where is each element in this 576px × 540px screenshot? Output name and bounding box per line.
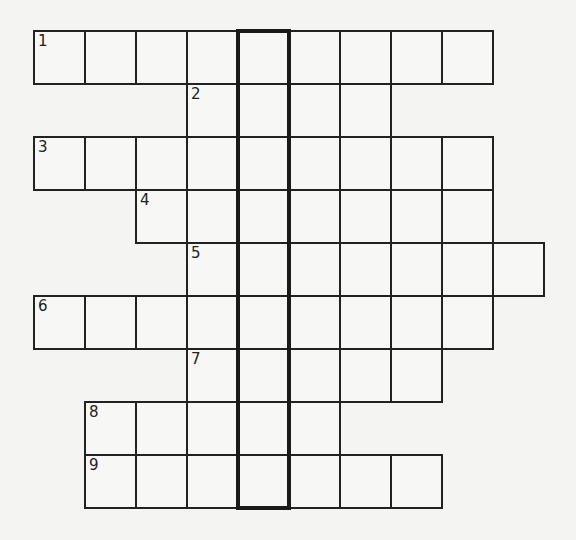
letter-input[interactable]: [137, 138, 186, 189]
letter-input[interactable]: [443, 191, 492, 242]
crossword-cell[interactable]: [288, 454, 341, 509]
crossword-cell[interactable]: [390, 454, 443, 509]
crossword-cell[interactable]: [186, 136, 239, 191]
letter-input[interactable]: [137, 191, 186, 242]
letter-input[interactable]: [239, 32, 288, 83]
crossword-cell[interactable]: 4: [135, 189, 188, 244]
letter-input[interactable]: [188, 403, 237, 454]
crossword-cell[interactable]: [390, 189, 443, 244]
letter-input[interactable]: [137, 32, 186, 83]
letter-input[interactable]: [239, 191, 288, 242]
letter-input[interactable]: [341, 350, 390, 401]
crossword-cell[interactable]: [288, 189, 341, 244]
crossword-cell[interactable]: [186, 295, 239, 350]
letter-input[interactable]: [392, 32, 441, 83]
letter-input[interactable]: [137, 456, 186, 507]
crossword-cell[interactable]: [441, 189, 494, 244]
letter-input[interactable]: [290, 85, 339, 136]
crossword-cell[interactable]: [441, 30, 494, 85]
letter-input[interactable]: [188, 297, 237, 348]
crossword-cell[interactable]: [84, 30, 137, 85]
letter-input[interactable]: [392, 191, 441, 242]
crossword-cell[interactable]: [339, 454, 392, 509]
crossword-cell[interactable]: [84, 295, 137, 350]
letter-input[interactable]: [341, 191, 390, 242]
letter-input[interactable]: [290, 191, 339, 242]
crossword-cell[interactable]: [390, 30, 443, 85]
letter-input[interactable]: [443, 32, 492, 83]
crossword-cell[interactable]: [135, 401, 188, 456]
crossword-cell[interactable]: [288, 83, 341, 138]
letter-input[interactable]: [290, 32, 339, 83]
letter-input[interactable]: [443, 138, 492, 189]
letter-input[interactable]: [188, 138, 237, 189]
letter-input[interactable]: [239, 403, 288, 454]
crossword-cell[interactable]: [339, 189, 392, 244]
letter-input[interactable]: [290, 456, 339, 507]
letter-input[interactable]: [188, 350, 237, 401]
crossword-cell[interactable]: [339, 348, 392, 403]
letter-input[interactable]: [86, 456, 135, 507]
crossword-cell[interactable]: [288, 295, 341, 350]
letter-input[interactable]: [86, 403, 135, 454]
letter-input[interactable]: [137, 297, 186, 348]
letter-input[interactable]: [239, 350, 288, 401]
letter-input[interactable]: [392, 350, 441, 401]
crossword-cell[interactable]: [492, 242, 545, 297]
crossword-cell[interactable]: [237, 30, 290, 85]
letter-input[interactable]: [137, 403, 186, 454]
crossword-cell[interactable]: [390, 295, 443, 350]
letter-input[interactable]: [341, 85, 390, 136]
crossword-cell[interactable]: [288, 30, 341, 85]
crossword-cell[interactable]: [186, 189, 239, 244]
crossword-cell[interactable]: [237, 348, 290, 403]
letter-input[interactable]: [239, 244, 288, 295]
letter-input[interactable]: [290, 297, 339, 348]
crossword-cell[interactable]: [237, 401, 290, 456]
crossword-cell[interactable]: [237, 83, 290, 138]
crossword-cell[interactable]: [390, 242, 443, 297]
crossword-cell[interactable]: [441, 136, 494, 191]
crossword-cell[interactable]: [441, 242, 494, 297]
crossword-cell[interactable]: [339, 136, 392, 191]
letter-input[interactable]: [188, 191, 237, 242]
crossword-cell[interactable]: [186, 30, 239, 85]
crossword-cell[interactable]: [390, 136, 443, 191]
letter-input[interactable]: [239, 138, 288, 189]
letter-input[interactable]: [341, 138, 390, 189]
letter-input[interactable]: [341, 32, 390, 83]
crossword-cell[interactable]: 3: [33, 136, 86, 191]
letter-input[interactable]: [341, 244, 390, 295]
letter-input[interactable]: [239, 297, 288, 348]
letter-input[interactable]: [392, 297, 441, 348]
letter-input[interactable]: [35, 138, 84, 189]
letter-input[interactable]: [392, 456, 441, 507]
letter-input[interactable]: [290, 138, 339, 189]
letter-input[interactable]: [239, 456, 288, 507]
crossword-cell[interactable]: [390, 348, 443, 403]
letter-input[interactable]: [188, 244, 237, 295]
letter-input[interactable]: [341, 297, 390, 348]
crossword-cell[interactable]: [339, 30, 392, 85]
letter-input[interactable]: [443, 244, 492, 295]
crossword-cell[interactable]: [135, 136, 188, 191]
crossword-cell[interactable]: [84, 136, 137, 191]
crossword-cell[interactable]: [186, 454, 239, 509]
letter-input[interactable]: [188, 456, 237, 507]
letter-input[interactable]: [290, 403, 339, 454]
letter-input[interactable]: [35, 32, 84, 83]
crossword-cell[interactable]: [339, 295, 392, 350]
crossword-cell[interactable]: 5: [186, 242, 239, 297]
crossword-cell[interactable]: [237, 136, 290, 191]
letter-input[interactable]: [392, 138, 441, 189]
crossword-cell[interactable]: 1: [33, 30, 86, 85]
crossword-cell[interactable]: [186, 401, 239, 456]
crossword-cell[interactable]: 6: [33, 295, 86, 350]
crossword-cell[interactable]: 9: [84, 454, 137, 509]
letter-input[interactable]: [188, 32, 237, 83]
crossword-cell[interactable]: [339, 242, 392, 297]
crossword-cell[interactable]: 8: [84, 401, 137, 456]
letter-input[interactable]: [443, 297, 492, 348]
letter-input[interactable]: [86, 32, 135, 83]
crossword-cell[interactable]: [288, 136, 341, 191]
